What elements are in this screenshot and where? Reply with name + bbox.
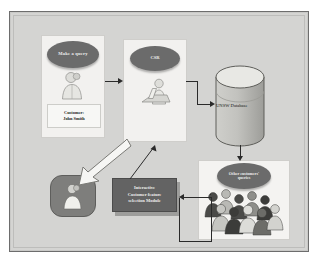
- customer-query-bubble: Make a query: [47, 41, 99, 68]
- connector-crowd-to-module-seg2: [184, 197, 212, 198]
- diagram-canvas: Make a query Customer: John Smith CSR: [0, 0, 317, 271]
- connector-feedback-seg2: [179, 241, 212, 242]
- connector-customer-to-csr-arrowhead: [118, 78, 123, 84]
- customer-panel: Make a query Customer: John Smith: [41, 35, 105, 138]
- connector-customer-to-csr: [105, 81, 119, 82]
- database-label: UNSW Database: [216, 103, 268, 108]
- connector-crowd-to-module-seg1: [210, 194, 211, 195]
- connector-csr-to-agent-block-arrow: [69, 137, 131, 189]
- csr-bubble: CSR: [130, 46, 180, 71]
- crowd-bubble-line2: queries: [229, 176, 259, 180]
- customer-person-icon: [58, 70, 88, 100]
- agent-at-desk-icon: [139, 78, 172, 110]
- csr-panel: CSR: [123, 39, 187, 142]
- connector-csr-to-db-seg2: [197, 81, 198, 105]
- connector-csr-to-db-arrowhead: [210, 101, 215, 107]
- customer-label-line2: John Smith: [63, 116, 85, 122]
- connector-module-to-csr: [128, 143, 160, 181]
- connector-db-to-crowd-arrowhead: [237, 156, 243, 161]
- connector-feedback-seg3: [179, 198, 180, 242]
- connector-csr-to-db-seg3: [197, 104, 211, 105]
- connector-feedback-seg1: [211, 198, 212, 242]
- module-line3: selection Module: [128, 198, 162, 205]
- crowd-of-people-icon: [201, 183, 287, 237]
- diagram-frame: Make a query Customer: John Smith CSR: [9, 11, 309, 252]
- customer-name-label: Customer: John Smith: [47, 104, 101, 128]
